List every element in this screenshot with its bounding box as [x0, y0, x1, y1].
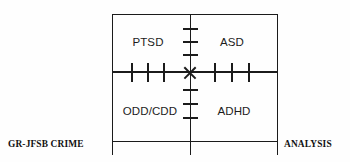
- tick-up-1: [183, 54, 198, 56]
- tick-right-3: [248, 63, 250, 82]
- tick-down-3: [183, 117, 198, 119]
- quadrant-label-top-left: PTSD: [132, 36, 163, 48]
- caption-right: ANALYSIS: [284, 139, 332, 149]
- vertical-axis-line: [190, 14, 192, 155]
- tick-left-3: [131, 63, 133, 82]
- tick-up-2: [183, 41, 198, 43]
- tick-right-2: [231, 63, 233, 82]
- tick-up-3: [183, 28, 198, 30]
- quadrant-label-top-right: ASD: [220, 36, 244, 48]
- tick-down-1: [183, 89, 198, 91]
- tick-right-1: [214, 63, 216, 82]
- caption-left: GR-JFSB CRIME: [8, 139, 84, 149]
- frame-left-rail-extension: [112, 142, 113, 155]
- quadrant-label-bottom-left: ODD/CDD: [123, 105, 177, 117]
- tick-left-1: [163, 63, 165, 82]
- frame-right-rail-extension: [277, 142, 278, 155]
- tick-left-2: [147, 63, 149, 82]
- x-cross-marker-icon: [182, 65, 198, 81]
- diagram-canvas: PTSD ASD ODD/CDD ADHD GR-JFSB CRIME ANAL…: [0, 0, 350, 162]
- tick-down-2: [183, 103, 198, 105]
- quadrant-label-bottom-right: ADHD: [218, 105, 251, 117]
